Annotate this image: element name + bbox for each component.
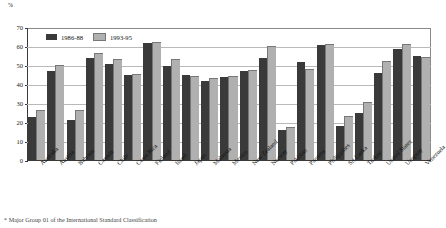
legend-swatch-icon-1986-88 <box>46 34 57 40</box>
bar <box>240 71 248 160</box>
chart-legend: 1986-88 1993-95 <box>46 33 132 41</box>
y-axis-unit-label: % <box>8 2 13 8</box>
y-tick-label-30: 30 <box>17 101 24 108</box>
y-tick-label-50: 50 <box>17 63 24 70</box>
bar <box>163 66 171 160</box>
bar-series-container <box>27 28 431 160</box>
bar <box>105 64 113 160</box>
legend-item-1993-95: 1993-95 <box>93 33 132 41</box>
y-tick-label-20: 20 <box>17 120 24 127</box>
legend-item-1986-88: 1986-88 <box>46 34 83 41</box>
bar-group <box>46 28 65 160</box>
y-tick-label-0: 0 <box>20 158 23 165</box>
bar <box>75 110 84 160</box>
bar-group <box>277 28 296 160</box>
bar-group <box>239 28 258 160</box>
bar <box>209 78 218 160</box>
bar <box>421 57 430 160</box>
bar-group <box>65 28 84 160</box>
bar <box>317 45 325 160</box>
bar <box>248 70 257 160</box>
legend-swatch-icon-1993-95 <box>93 33 106 41</box>
bar <box>344 116 353 160</box>
plot-area <box>27 28 431 161</box>
y-tick-label-10: 10 <box>17 139 24 146</box>
bar-group <box>354 28 373 160</box>
bar <box>55 65 64 160</box>
bar-group <box>85 28 104 160</box>
bar <box>132 74 141 160</box>
bar <box>382 61 391 160</box>
legend-label-1993-95: 1993-95 <box>110 34 132 41</box>
bar-group <box>335 28 354 160</box>
bar-group <box>412 28 431 160</box>
bar-group <box>123 28 142 160</box>
x-axis-tick-labels: AustraliaAustriaBahrainCanadaChileCosta … <box>27 162 431 212</box>
bar-group <box>373 28 392 160</box>
bar <box>190 76 199 160</box>
bar <box>36 110 45 160</box>
bar-group <box>104 28 123 160</box>
bar <box>182 75 190 160</box>
y-tick-label-60: 60 <box>17 44 24 51</box>
bar <box>124 75 132 160</box>
chart-footnote: * Major Group 01 of the International St… <box>4 216 434 223</box>
bar <box>143 43 151 160</box>
bar-group <box>316 28 335 160</box>
bar-group <box>162 28 181 160</box>
bar <box>305 69 314 161</box>
bar <box>86 58 94 160</box>
bar <box>374 73 382 160</box>
bar-group <box>219 28 238 160</box>
bar <box>28 117 36 160</box>
bar <box>171 59 180 160</box>
bar <box>297 62 305 160</box>
bar-group <box>296 28 315 160</box>
bar <box>113 59 122 160</box>
bar <box>201 81 209 160</box>
bar <box>325 44 334 160</box>
y-tick-label-40: 40 <box>17 82 24 89</box>
y-tick-label-70: 70 <box>17 25 24 32</box>
bar <box>94 53 103 160</box>
bar-group <box>181 28 200 160</box>
bar <box>413 56 421 160</box>
y-axis-tick-labels: 010203040506070 <box>0 28 25 161</box>
bar-group <box>200 28 219 160</box>
bar-group <box>142 28 161 160</box>
bar-group <box>27 28 46 160</box>
legend-label-1986-88: 1986-88 <box>61 34 83 41</box>
